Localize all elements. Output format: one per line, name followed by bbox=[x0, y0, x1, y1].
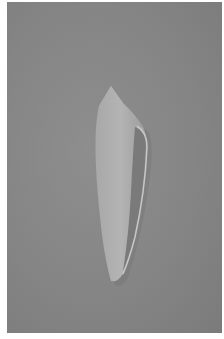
photo bbox=[7, 2, 222, 333]
cone-shell bbox=[7, 2, 222, 333]
